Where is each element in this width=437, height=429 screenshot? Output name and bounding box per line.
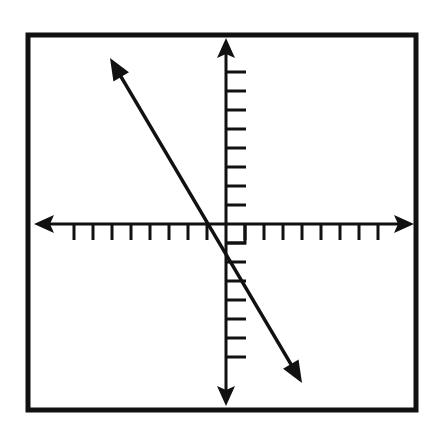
line-end-arrow-icon: [283, 359, 302, 383]
coordinate-graph: [0, 0, 437, 429]
line-start-arrow-icon: [110, 58, 129, 82]
line-segment: [117, 70, 295, 371]
graphed-line: [110, 58, 302, 383]
axes: [34, 38, 414, 406]
right-angle-marker: [226, 224, 245, 243]
